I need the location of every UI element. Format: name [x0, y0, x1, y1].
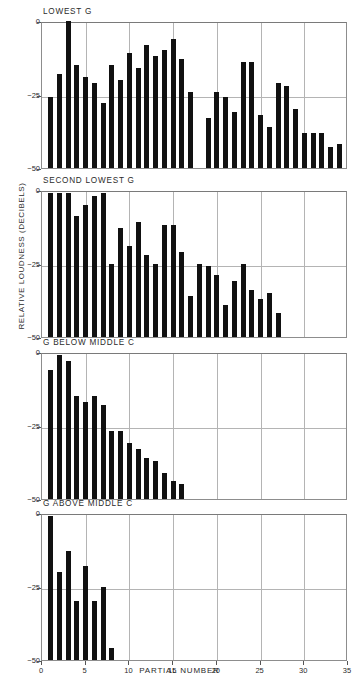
panel-title: G BELOW MIDDLE C: [43, 338, 135, 347]
bar: [92, 83, 97, 168]
bar: [171, 225, 176, 337]
bar: [267, 127, 272, 168]
bar: [83, 566, 88, 660]
x-tick-mark: [85, 661, 86, 665]
gridline-vertical: [217, 354, 218, 499]
bar: [241, 62, 246, 168]
bar: [179, 484, 184, 499]
bar: [118, 431, 123, 499]
gridline-vertical: [217, 515, 218, 660]
bar: [83, 77, 88, 168]
bar: [57, 74, 62, 168]
bar: [74, 601, 79, 660]
bar: [206, 118, 211, 168]
bar: [74, 65, 79, 168]
bar: [276, 313, 281, 337]
bar: [136, 222, 141, 337]
bar: [136, 449, 141, 499]
bar: [127, 246, 132, 337]
y-tick-mark: [37, 353, 41, 354]
y-tick-mark: [37, 514, 41, 515]
x-tick-mark: [216, 661, 217, 665]
bar: [337, 144, 342, 168]
bar: [162, 50, 167, 168]
x-tick-mark: [303, 661, 304, 665]
bar: [66, 21, 71, 168]
bar: [66, 361, 71, 499]
bar: [162, 225, 167, 337]
y-tick-mark: [37, 427, 41, 428]
bar: [223, 305, 228, 337]
bar: [179, 59, 184, 168]
bar: [214, 275, 219, 337]
gridline-vertical: [261, 354, 262, 499]
bar: [223, 97, 228, 168]
panel-title: LOWEST G: [43, 7, 92, 16]
plot-area: [41, 191, 347, 338]
bar: [144, 45, 149, 168]
bar: [136, 68, 141, 168]
bar: [267, 293, 272, 337]
bar: [83, 205, 88, 337]
bar: [153, 56, 158, 168]
x-tick-label: 35: [337, 666, 357, 675]
bar: [57, 193, 62, 337]
bar: [232, 281, 237, 337]
bar: [188, 92, 193, 168]
y-tick-mark: [37, 191, 41, 192]
plot-area: [41, 514, 347, 661]
y-tick-mark: [37, 22, 41, 23]
bar: [153, 461, 158, 499]
bar: [127, 443, 132, 499]
gridline-vertical: [261, 515, 262, 660]
bar: [258, 115, 263, 168]
gridline-vertical: [173, 354, 174, 499]
bar: [197, 264, 202, 338]
bar: [258, 299, 263, 337]
bar: [109, 431, 114, 499]
bar: [293, 109, 298, 168]
gridline-vertical: [129, 515, 130, 660]
y-tick-mark: [37, 169, 41, 170]
bar: [144, 458, 149, 499]
x-tick-mark: [41, 661, 42, 665]
bar: [74, 216, 79, 337]
bar: [241, 264, 246, 338]
bar: [144, 255, 149, 337]
bar: [249, 62, 254, 168]
x-tick-label: 10: [118, 666, 138, 675]
bar: [118, 80, 123, 168]
x-tick-mark: [128, 661, 129, 665]
gridline-vertical: [304, 192, 305, 337]
bar: [284, 86, 289, 168]
bar: [214, 92, 219, 168]
bar: [92, 396, 97, 499]
bar: [162, 473, 167, 499]
bar: [109, 65, 114, 168]
plot-area: [41, 353, 347, 500]
x-tick-mark: [260, 661, 261, 665]
plot-area: [41, 22, 347, 169]
bar: [101, 587, 106, 661]
bar: [127, 53, 132, 168]
y-tick-mark: [37, 96, 41, 97]
gridline-vertical: [304, 354, 305, 499]
x-tick-label: 0: [31, 666, 51, 675]
bar: [302, 133, 307, 168]
x-tick-label: 20: [206, 666, 226, 675]
bar: [101, 103, 106, 168]
bar: [109, 648, 114, 660]
y-tick-mark: [37, 588, 41, 589]
bar: [92, 601, 97, 660]
bar: [311, 133, 316, 168]
bar: [57, 355, 62, 499]
x-tick-mark: [172, 661, 173, 665]
bar: [319, 133, 324, 168]
bar: [48, 516, 53, 660]
x-tick-label: 30: [293, 666, 313, 675]
gridline-vertical: [173, 515, 174, 660]
bar: [153, 264, 158, 338]
bar: [249, 290, 254, 337]
bar: [171, 39, 176, 168]
bar: [206, 266, 211, 337]
